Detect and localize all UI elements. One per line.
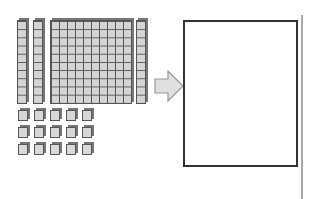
divider-line <box>301 15 303 199</box>
tens-rod-1 <box>17 20 27 104</box>
unit-cube <box>66 144 76 155</box>
answer-box <box>183 20 298 167</box>
unit-cube <box>18 110 28 121</box>
tens-rod-3 <box>136 20 146 104</box>
unit-cube <box>66 127 76 138</box>
hundreds-flat <box>50 20 132 104</box>
unit-cube <box>82 144 92 155</box>
unit-cube <box>82 110 92 121</box>
unit-cube <box>18 127 28 138</box>
unit-cube <box>34 144 44 155</box>
unit-cube <box>34 127 44 138</box>
unit-cube <box>34 110 44 121</box>
unit-cube <box>82 127 92 138</box>
unit-cube <box>50 127 60 138</box>
unit-cube <box>50 110 60 121</box>
unit-cube <box>50 144 60 155</box>
right-arrow-icon <box>154 70 184 102</box>
tens-rod-2 <box>33 20 43 104</box>
unit-cube <box>18 144 28 155</box>
unit-cube <box>66 110 76 121</box>
